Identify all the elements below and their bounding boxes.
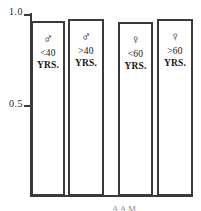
clipped-caption: A A M bbox=[112, 204, 201, 211]
clipped-caption-text: A A M bbox=[112, 204, 201, 211]
bar-female-over-60: ♀ >60 YRS. bbox=[157, 19, 193, 196]
bar-label-group: ♀ <60 YRS. bbox=[120, 33, 151, 72]
bar-unit-label: YRS. bbox=[164, 58, 186, 69]
bar-age-label: <60 bbox=[128, 49, 143, 60]
bar-unit-label: YRS. bbox=[124, 61, 146, 72]
female-symbol-icon: ♀ bbox=[131, 33, 141, 48]
y-axis-tick-label-top: 1.0 bbox=[0, 6, 23, 17]
bar-unit-label: YRS. bbox=[75, 58, 97, 69]
bar-unit-label: YRS. bbox=[37, 60, 59, 71]
bar-male-under-40: ♂ <40 YRS. bbox=[31, 21, 65, 196]
bar-label-group: ♂ >40 YRS. bbox=[70, 30, 102, 69]
y-axis-tick-1.0 bbox=[24, 14, 30, 16]
bar-label-group: ♀ >60 YRS. bbox=[159, 30, 191, 69]
male-symbol-icon: ♂ bbox=[43, 32, 53, 47]
y-axis-tick-label-middle: 0.5 bbox=[0, 98, 23, 109]
bar-label-group: ♂ <40 YRS. bbox=[33, 32, 63, 71]
bar-chart: 1.0 0.5 ♂ <40 YRS. ♂ >40 YRS. ♀ <60 YRS.… bbox=[0, 0, 201, 211]
y-axis-tick-0.5 bbox=[24, 105, 30, 107]
bar-male-over-40: ♂ >40 YRS. bbox=[68, 19, 104, 196]
bar-age-label: >40 bbox=[78, 46, 93, 57]
male-symbol-icon: ♂ bbox=[81, 30, 91, 45]
bar-female-under-60: ♀ <60 YRS. bbox=[118, 22, 153, 196]
bar-age-label: <40 bbox=[40, 48, 55, 59]
bar-age-label: >60 bbox=[167, 46, 182, 57]
female-symbol-icon: ♀ bbox=[170, 30, 180, 45]
